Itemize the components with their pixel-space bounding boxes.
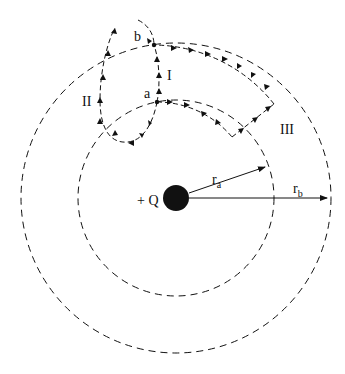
point-charge xyxy=(163,185,189,211)
path-III-label: III xyxy=(280,122,294,137)
path-arrows xyxy=(97,28,271,146)
radius-a-arrow xyxy=(189,167,265,193)
path-II xyxy=(100,20,157,142)
electric-potential-diagram: + Q ra rb xyxy=(0,0,345,374)
path-III xyxy=(154,45,274,137)
path-II-label: II xyxy=(82,94,92,109)
charge-label: + Q xyxy=(137,193,159,208)
point-b-label: b xyxy=(134,29,141,44)
radius-b-label: rb xyxy=(293,181,303,199)
point-b xyxy=(152,43,156,47)
point-a-label: a xyxy=(144,86,151,101)
point-a xyxy=(155,100,159,104)
radius-a-label: ra xyxy=(212,172,222,190)
path-I-label: I xyxy=(167,68,172,83)
